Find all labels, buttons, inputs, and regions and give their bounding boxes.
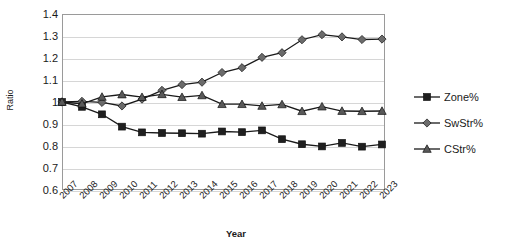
data-point-marker (339, 140, 346, 147)
data-point-marker (338, 33, 346, 41)
data-point-marker (378, 35, 386, 43)
data-point-marker (279, 136, 286, 143)
data-point-marker (319, 143, 326, 150)
data-point-marker (359, 143, 366, 150)
data-point-marker (239, 129, 246, 136)
data-point-marker (119, 123, 126, 130)
data-point-marker (118, 90, 126, 98)
data-point-marker (299, 141, 306, 148)
legend-label: SwStr% (444, 117, 483, 129)
data-point-marker (318, 31, 326, 39)
data-point-marker (179, 130, 186, 137)
data-point-marker (198, 78, 206, 86)
data-point-marker (139, 129, 146, 136)
data-point-marker (199, 130, 206, 137)
legend-item-swstr[interactable]: SwStr% (412, 110, 512, 136)
legend-marker-triangle-icon (412, 142, 442, 156)
data-point-marker (238, 64, 246, 72)
data-point-marker (178, 81, 186, 89)
data-point-marker (219, 128, 226, 135)
legend-label: Zone% (444, 91, 479, 103)
legend-label: CStr% (444, 143, 476, 155)
data-point-marker (118, 102, 126, 110)
chart-figure: 1.41.31.21.110.90.80.70.6 Ratio 20072008… (0, 0, 515, 246)
data-point-marker (198, 91, 206, 99)
legend-item-zone[interactable]: Zone% (412, 84, 512, 110)
data-point-marker (259, 127, 266, 134)
series-swstr (58, 31, 386, 110)
data-point-marker (318, 102, 326, 110)
chart-legend: Zone%SwStr%CStr% (412, 84, 512, 162)
legend-marker-diamond-icon (412, 116, 442, 130)
legend-marker-square-icon (412, 90, 442, 104)
data-point-marker (358, 35, 366, 43)
series-cstr (58, 90, 386, 115)
data-point-marker (159, 130, 166, 137)
legend-item-cstr[interactable]: CStr% (412, 136, 512, 162)
data-point-marker (379, 141, 386, 148)
data-point-marker (278, 49, 286, 57)
data-point-marker (99, 111, 106, 118)
data-point-marker (424, 94, 431, 101)
data-point-marker (423, 119, 431, 127)
data-point-marker (298, 36, 306, 44)
data-point-marker (258, 53, 266, 61)
data-point-marker (218, 68, 226, 76)
